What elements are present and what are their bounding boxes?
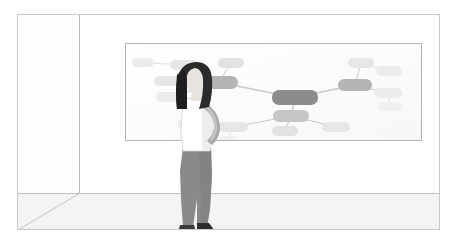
mind-map-leaf-node [272,126,298,136]
scene-container: Illustration of a room in perspective wi… [0,0,460,244]
mind-map-leaf-node [376,66,402,76]
mind-map-leaf-node [378,102,402,111]
mind-map-branch-node [273,110,309,122]
floor [18,193,440,230]
person-figure [166,59,228,230]
scene-description: Illustration of a room in perspective wi… [0,0,1,1]
shoe-front [197,223,215,230]
mind-map-root-node [272,90,318,105]
floor-wall-edge [18,193,440,194]
hair-back [176,70,187,109]
mind-map-leaf-node [132,58,154,67]
shoe-back [178,225,196,230]
floor-perspective-line [18,193,80,230]
picture-frame [17,14,440,230]
mind-map-branch-node [338,79,372,91]
mind-map-leaf-node [374,88,402,98]
pants-shading [199,148,212,227]
mind-map-leaf-node [348,58,374,68]
mind-map-leaf-node [322,122,350,132]
